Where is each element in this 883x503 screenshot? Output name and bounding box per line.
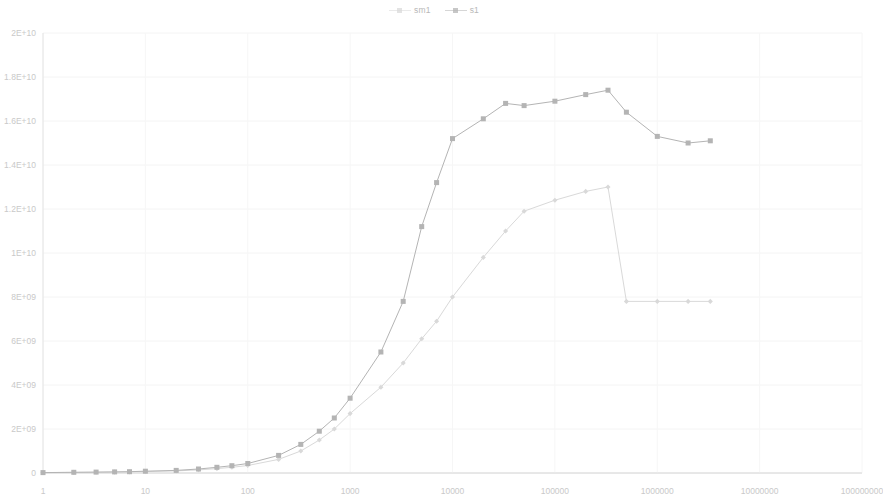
data-point-s1 bbox=[450, 136, 455, 141]
y-axis-tick-label: 0 bbox=[0, 468, 36, 478]
data-point-sm1 bbox=[298, 448, 303, 453]
series-s1 bbox=[41, 88, 713, 475]
data-point-s1 bbox=[481, 116, 486, 121]
series-sm1 bbox=[40, 184, 712, 475]
x-axis-tick-label: 100000000 bbox=[841, 486, 883, 496]
data-point-s1 bbox=[522, 103, 527, 108]
series-line-s1 bbox=[43, 90, 710, 472]
data-point-s1 bbox=[112, 469, 117, 474]
data-point-sm1 bbox=[552, 198, 557, 203]
y-axis-tick-label: 1.8E+10 bbox=[0, 72, 36, 82]
data-point-s1 bbox=[143, 469, 148, 474]
data-point-s1 bbox=[71, 470, 76, 475]
data-point-s1 bbox=[655, 134, 660, 139]
data-point-s1 bbox=[245, 461, 250, 466]
data-point-s1 bbox=[41, 470, 46, 475]
data-point-sm1 bbox=[686, 299, 691, 304]
data-point-s1 bbox=[127, 469, 132, 474]
data-point-s1 bbox=[332, 416, 337, 421]
y-axis-tick-label: 1E+10 bbox=[0, 248, 36, 258]
data-point-s1 bbox=[434, 180, 439, 185]
y-axis-tick-label: 2E+09 bbox=[0, 424, 36, 434]
x-axis-tick-label: 1 bbox=[41, 486, 46, 496]
data-point-s1 bbox=[708, 138, 713, 143]
data-point-s1 bbox=[419, 224, 424, 229]
data-point-s1 bbox=[624, 110, 629, 115]
x-axis-tick-label: 1000 bbox=[341, 486, 360, 496]
data-point-s1 bbox=[196, 467, 201, 472]
x-axis-tick-label: 1000000 bbox=[641, 486, 674, 496]
data-point-sm1 bbox=[624, 299, 629, 304]
data-point-s1 bbox=[503, 101, 508, 106]
data-point-s1 bbox=[229, 463, 234, 468]
y-axis-tick-label: 2E+10 bbox=[0, 28, 36, 38]
data-point-s1 bbox=[298, 442, 303, 447]
data-point-s1 bbox=[378, 350, 383, 355]
x-axis-tick-label: 10 bbox=[141, 486, 150, 496]
x-axis-tick-label: 10000 bbox=[441, 486, 465, 496]
data-point-s1 bbox=[552, 99, 557, 104]
data-point-sm1 bbox=[708, 299, 713, 304]
data-point-sm1 bbox=[655, 299, 660, 304]
x-axis-tick-label: 100000 bbox=[541, 486, 569, 496]
data-point-s1 bbox=[686, 141, 691, 146]
data-point-s1 bbox=[317, 429, 322, 434]
data-point-s1 bbox=[348, 396, 353, 401]
y-axis-tick-label: 6E+09 bbox=[0, 336, 36, 346]
y-axis-tick-label: 4E+09 bbox=[0, 380, 36, 390]
data-point-s1 bbox=[401, 299, 406, 304]
data-point-s1 bbox=[94, 470, 99, 475]
y-axis-tick-label: 8E+09 bbox=[0, 292, 36, 302]
data-point-s1 bbox=[214, 465, 219, 470]
data-point-s1 bbox=[276, 453, 281, 458]
y-axis-tick-label: 1.4E+10 bbox=[0, 160, 36, 170]
data-point-sm1 bbox=[605, 184, 610, 189]
data-point-s1 bbox=[606, 88, 611, 93]
grid-lines bbox=[43, 33, 862, 473]
data-point-sm1 bbox=[583, 189, 588, 194]
data-point-s1 bbox=[583, 92, 588, 97]
data-point-s1 bbox=[174, 468, 179, 473]
y-axis-tick-label: 1.6E+10 bbox=[0, 116, 36, 126]
y-axis-tick-label: 1.2E+10 bbox=[0, 204, 36, 214]
x-axis-tick-label: 10000000 bbox=[741, 486, 779, 496]
series-line-sm1 bbox=[43, 187, 710, 473]
x-axis-tick-label: 100 bbox=[241, 486, 255, 496]
